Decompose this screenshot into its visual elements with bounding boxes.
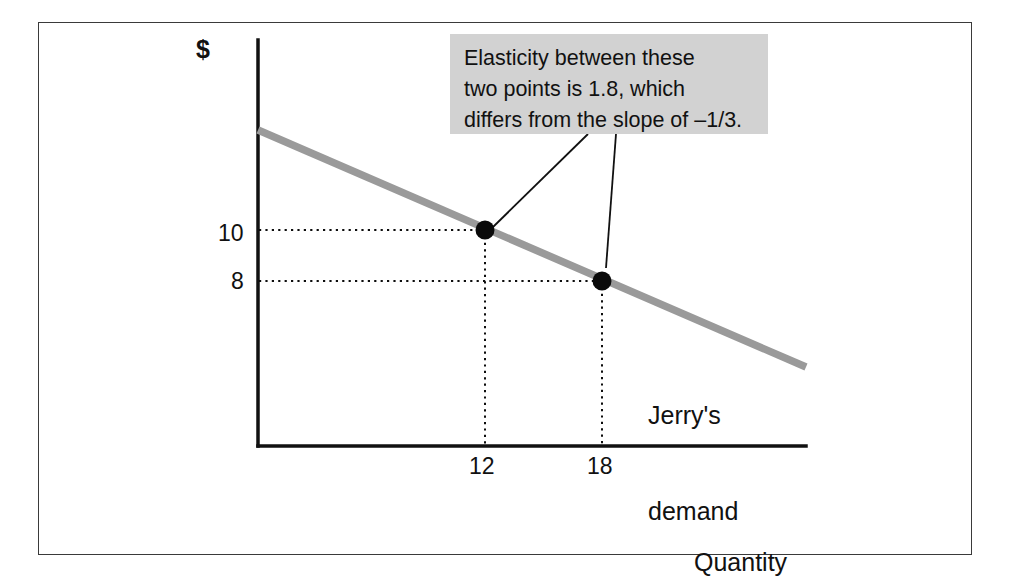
- x-axis-title: Quantity of T-shirts: [694, 482, 803, 588]
- callout-leader-line-point-2: [606, 134, 616, 268]
- y-tick-label-8: 8: [231, 267, 244, 296]
- callout-text-line3: differs from the slope of –1/3.: [464, 105, 768, 136]
- callout-text-line1: Elasticity between these: [464, 43, 768, 74]
- x-tick-label-18: 18: [587, 452, 613, 481]
- callout-leader-line-point-1: [492, 134, 588, 228]
- demand-curve: [258, 130, 806, 367]
- elasticity-callout-box: Elasticity between these two points is 1…: [450, 34, 768, 134]
- y-tick-label-10: 10: [218, 219, 244, 248]
- demand-curve-label-line1: Jerry's: [648, 399, 738, 431]
- economics-demand-chart: $ 10 8 12 18 Jerry's demand Quantity of …: [0, 0, 1011, 588]
- y-axis-label: $: [196, 33, 210, 65]
- data-point-q18-p8: [593, 272, 612, 291]
- x-tick-label-12: 12: [469, 452, 495, 481]
- callout-text-line2: two points is 1.8, which: [464, 74, 768, 105]
- x-axis-title-line1: Quantity: [694, 546, 803, 578]
- data-point-q12-p10: [476, 221, 495, 240]
